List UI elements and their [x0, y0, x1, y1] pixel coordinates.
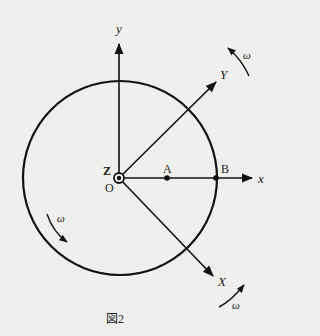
- X-axis-label: X: [218, 275, 226, 288]
- figure-caption: 図2: [106, 313, 124, 325]
- Y-axis-label: Y: [220, 68, 227, 81]
- y-axis-label: y: [116, 22, 122, 35]
- point-a: [164, 175, 170, 181]
- omega-label-top: ω: [243, 50, 251, 61]
- omega-label-bottom: ω: [232, 300, 240, 311]
- point-b: [213, 175, 219, 181]
- omega-label-left: ω: [57, 213, 65, 224]
- x-axis-label: x: [258, 172, 264, 185]
- origin-label: O: [105, 182, 114, 194]
- Z-axis-label: Z: [103, 165, 111, 177]
- point-b-label: B: [221, 163, 229, 175]
- X-axis-rotating: [119, 178, 213, 276]
- point-a-label: A: [163, 163, 172, 175]
